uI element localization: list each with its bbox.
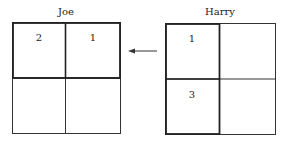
harry-cell-3: 3 bbox=[165, 79, 219, 135]
joe-cell-3 bbox=[12, 78, 66, 134]
harry-cell-2 bbox=[220, 23, 275, 79]
harry-cell-1: 1 bbox=[165, 23, 219, 79]
joe-cell-4 bbox=[66, 78, 120, 134]
joe-cell-2: 1 bbox=[66, 22, 120, 78]
harry-cell-4 bbox=[220, 79, 275, 135]
arrow-head-icon bbox=[128, 49, 135, 54]
joe-cell-1: 2 bbox=[12, 22, 66, 78]
